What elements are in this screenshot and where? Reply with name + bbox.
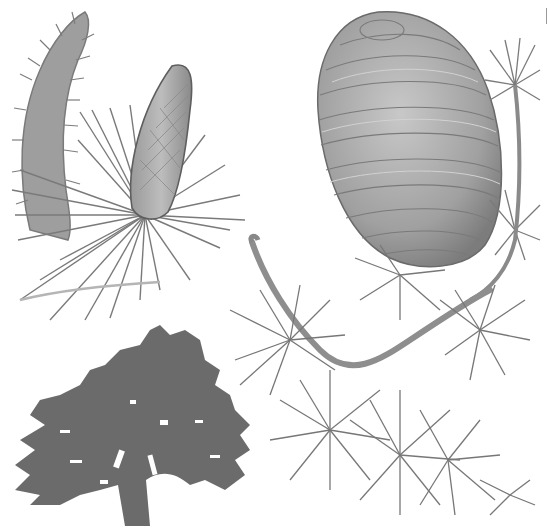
needle-branch [230, 236, 535, 515]
young-cone [131, 65, 192, 219]
edge-mark [546, 8, 547, 24]
botanical-illustration [0, 0, 549, 532]
tree-silhouette [15, 325, 250, 526]
mature-cone [318, 12, 502, 267]
male-catkin [12, 12, 94, 240]
